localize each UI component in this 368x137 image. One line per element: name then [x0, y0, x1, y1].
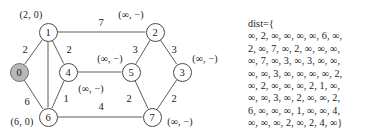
graph-node-label: 3	[179, 67, 184, 78]
edge-weight-label: 2	[22, 44, 27, 55]
dist-row: ∞, ∞, 3, ∞, ∞, ∞, ∞, 2,	[248, 68, 368, 80]
graph-node-4[interactable]: 4	[59, 63, 78, 82]
graph-node-label: 4	[65, 67, 70, 78]
graph-node-0[interactable]: 0	[10, 63, 29, 82]
dijkstra-figure: 01234567 2672332124 (6, 0)(2, 0)(∞, −)(∞…	[0, 0, 368, 137]
graph-node-6[interactable]: 6	[39, 108, 58, 127]
edge-weight-label: 2	[66, 44, 71, 55]
edge-weight-label: 7	[98, 17, 103, 28]
edge-weight-label: 4	[98, 101, 103, 112]
node-distance-label: (∞, −)	[192, 53, 218, 64]
dist-row: ∞, ∞, ∞, 2, ∞, 2, 4, ∞}	[248, 117, 368, 129]
graph-node-2[interactable]: 2	[146, 23, 165, 42]
graph-edges	[0, 0, 232, 137]
dist-row: 2, ∞, 7, ∞, 2, ∞, ∞, ∞,	[248, 43, 368, 55]
dist-row: 6, ∞, ∞, ∞, 1, ∞, ∞, 4,	[248, 105, 368, 117]
graph-node-1[interactable]: 1	[39, 23, 58, 42]
node-distance-label: (∞, −)	[97, 53, 123, 64]
dist-row: ∞, 2, ∞, ∞, ∞, ∞, 6, ∞,	[248, 30, 368, 42]
edge-weight-label: 3	[132, 44, 137, 55]
edge-weight-label: 2	[171, 93, 176, 104]
node-distance-label: (∞, −)	[78, 83, 104, 94]
edge-weight-label: 2	[126, 93, 131, 104]
node-distance-label: (6, 0)	[11, 116, 34, 127]
dist-row: ∞, 7, ∞, 3, ∞, 3, ∞, ∞,	[248, 55, 368, 67]
graph-node-3[interactable]: 3	[173, 63, 192, 82]
graph-node-label: 7	[149, 112, 154, 123]
edge-weight-label: 6	[24, 96, 29, 107]
graph-node-label: 5	[128, 67, 133, 78]
graph-node-label: 6	[45, 112, 50, 123]
graph-panel: 01234567 2672332124 (6, 0)(2, 0)(∞, −)(∞…	[0, 0, 232, 137]
graph-node-label: 0	[16, 67, 21, 78]
graph-node-7[interactable]: 7	[143, 108, 162, 127]
dist-row: ∞, 2, ∞, ∞, ∞, 2, 1, ∞,	[248, 80, 368, 92]
dist-header: dist={	[248, 18, 368, 30]
graph-node-label: 2	[152, 27, 157, 38]
node-distance-label: (2, 0)	[20, 9, 43, 20]
graph-node-5[interactable]: 5	[122, 63, 141, 82]
graph-node-label: 1	[45, 27, 50, 38]
edge-weight-label: 3	[171, 44, 176, 55]
edge-weight-label: 1	[63, 93, 68, 104]
distance-matrix: dist={ ∞, 2, ∞, ∞, ∞, ∞, 6, ∞, 2, ∞, 7, …	[248, 18, 368, 130]
dist-row: ∞, ∞, 3, ∞, 2, ∞, ∞, 2,	[248, 92, 368, 104]
node-distance-label: (∞, −)	[167, 116, 193, 127]
graph-edge	[52, 41, 64, 64]
graph-edge	[135, 81, 148, 109]
graph-edge	[136, 40, 150, 64]
node-distance-label: (∞, −)	[118, 9, 144, 20]
graph-edge	[52, 81, 64, 109]
